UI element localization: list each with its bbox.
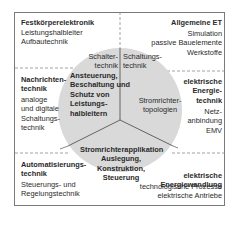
corner-top-left-items: Leistungshalbleiter Aufbautechnik — [21, 28, 83, 47]
circle-right-body: Stromrichter- topologien — [135, 96, 185, 115]
circle-left-body: Ansteuerung, Beschaltung und Schutz von … — [70, 71, 130, 118]
corner-middle-left-title: Nachrichten- technik — [21, 75, 66, 94]
corner-top-right-title: Allgemeine ET — [171, 18, 222, 27]
corner-middle-right-title: elektrische Energie- technik — [183, 77, 222, 105]
circle-left-heading: Schalter- technik — [88, 52, 118, 71]
corner-bottom-left-items: Steuerungs- und Regelungstechnik — [21, 180, 80, 199]
corner-bottom-right-items: technologische Prozesse elektrische Antr… — [140, 182, 222, 201]
corner-middle-right-items: Netz- anbindung EMV — [187, 107, 222, 135]
corner-bottom-left-title: Automatisierungs- technik — [21, 160, 86, 179]
corner-middle-left-items: analoge und digitale Schaltungs- technik — [21, 95, 60, 133]
ext-line-left — [60, 146, 68, 149]
circle-right-heading: Schaltungs- technik — [123, 52, 162, 71]
ext-line-right — [173, 146, 178, 148]
corner-top-left-title: Festkörperelektronik — [21, 18, 94, 27]
circle-bottom-body: Stromrichterapplikation Auslegung, Konst… — [80, 145, 162, 183]
